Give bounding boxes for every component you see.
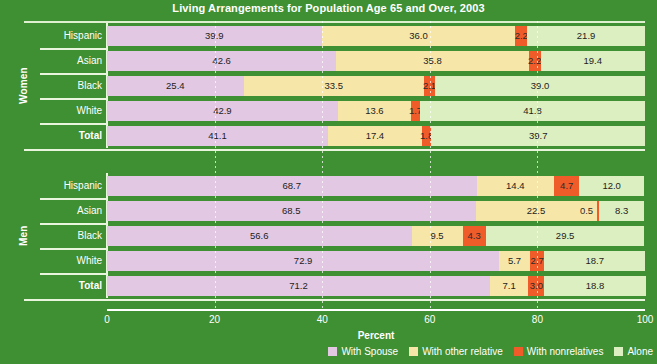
- bar-segment: [107, 201, 476, 221]
- bar-segment: [322, 26, 516, 46]
- chart-row: Asian68.522.50.58.3: [0, 198, 657, 223]
- stacked-bar: 42.913.61.741.8: [107, 101, 645, 121]
- bar-segment: [107, 226, 412, 246]
- bar-segment: [554, 176, 579, 196]
- stacked-bar: 68.714.44.712.0: [107, 176, 645, 196]
- bar-segment: [527, 26, 645, 46]
- bar-segment: [490, 276, 528, 296]
- stacked-bar: 41.117.41.839.7: [107, 126, 645, 146]
- bar-segment: [435, 76, 645, 96]
- x-tick-label: 40: [302, 314, 342, 325]
- legend-swatch-icon: [514, 347, 523, 356]
- row-label-total: Total: [40, 273, 102, 298]
- chart-row: White42.913.61.741.8: [0, 98, 657, 123]
- legend-label: With nonrelatives: [527, 346, 604, 357]
- bar-segment: [424, 76, 435, 96]
- legend-item: Alone: [614, 346, 653, 357]
- bar-segment: [412, 226, 463, 246]
- bar-segment: [599, 201, 644, 221]
- bar-segment: [420, 101, 645, 121]
- row-label-white: White: [40, 248, 102, 273]
- row-label-hispanic: Hispanic: [40, 173, 102, 198]
- row-label-asian: Asian: [40, 48, 102, 73]
- x-tick-label: 80: [517, 314, 557, 325]
- bar-segment: [515, 26, 527, 46]
- x-tick-label: 20: [195, 314, 235, 325]
- bar-segment: [411, 101, 420, 121]
- chart-row: Total71.27.13.018.8: [0, 273, 657, 298]
- bar-segment: [477, 176, 554, 196]
- bar-segment: [107, 101, 338, 121]
- legend-swatch-icon: [328, 347, 337, 356]
- bar-segment: [544, 276, 645, 296]
- group-separator-rule: [24, 149, 645, 151]
- legend-label: With other relative: [422, 346, 503, 357]
- chart-container: Living Arrangements for Population Age 6…: [0, 0, 657, 364]
- stacked-bar: 39.936.02.221.9: [107, 26, 645, 46]
- chart-row: Hispanic68.714.44.712.0: [0, 173, 657, 198]
- legend-swatch-icon: [614, 347, 623, 356]
- bar-segment: [107, 126, 328, 146]
- legend-item: With other relative: [409, 346, 503, 357]
- x-tick-label: 0: [87, 314, 127, 325]
- bar-segment: [244, 76, 424, 96]
- bar-segment: [422, 126, 432, 146]
- chart-row: Total41.117.41.839.7: [0, 123, 657, 148]
- row-label-black: Black: [40, 73, 102, 98]
- bar-segment: [107, 51, 336, 71]
- x-tick-label: 60: [410, 314, 450, 325]
- legend-item: With nonrelatives: [514, 346, 604, 357]
- stacked-bar: 42.635.82.219.4: [107, 51, 645, 71]
- bar-segment: [107, 251, 499, 271]
- row-label-white: White: [40, 98, 102, 123]
- bar-segment: [107, 76, 244, 96]
- chart-row: Hispanic39.936.02.221.9: [0, 23, 657, 48]
- legend-label: Alone: [627, 346, 653, 357]
- chart-row: Black56.69.54.329.5: [0, 223, 657, 248]
- bar-segment: [486, 226, 645, 246]
- bar-segment: [338, 101, 411, 121]
- bar-segment: [463, 226, 486, 246]
- row-label-hispanic: Hispanic: [40, 23, 102, 48]
- legend-swatch-icon: [409, 347, 418, 356]
- bar-segment: [107, 276, 490, 296]
- stacked-bar: 72.95.72.718.7: [107, 251, 645, 271]
- chart-row: Black25.433.52.139.0: [0, 73, 657, 98]
- bar-segment: [107, 176, 477, 196]
- x-axis-line: [107, 309, 645, 311]
- bar-segment: [529, 51, 541, 71]
- row-label-black: Black: [40, 223, 102, 248]
- bar-segment: [328, 126, 422, 146]
- stacked-bar: 56.69.54.329.5: [107, 226, 645, 246]
- row-label-asian: Asian: [40, 198, 102, 223]
- bar-segment: [336, 51, 529, 71]
- bar-segment: [530, 251, 545, 271]
- bar-segment: [541, 51, 645, 71]
- legend-item: With Spouse: [328, 346, 398, 357]
- x-axis-title: Percent: [107, 330, 645, 341]
- stacked-bar: 68.522.50.58.3: [107, 201, 645, 221]
- bar-segment: [499, 251, 530, 271]
- bar-segment: [476, 201, 597, 221]
- stacked-bar: 71.27.13.018.8: [107, 276, 645, 296]
- x-tick-label: 100: [625, 314, 657, 325]
- bar-segment: [431, 126, 645, 146]
- row-label-total: Total: [40, 123, 102, 148]
- legend-label: With Spouse: [341, 346, 398, 357]
- bar-segment: [579, 176, 644, 196]
- chart-row: White72.95.72.718.7: [0, 248, 657, 273]
- bar-segment: [107, 26, 322, 46]
- chart-row: Asian42.635.82.219.4: [0, 48, 657, 73]
- bar-segment: [528, 276, 544, 296]
- stacked-bar: 25.433.52.139.0: [107, 76, 645, 96]
- chart-title: Living Arrangements for Population Age 6…: [0, 2, 657, 14]
- plot-bottom-rule: [24, 299, 645, 301]
- legend: With SpouseWith other relativeWith nonre…: [328, 346, 653, 357]
- bar-segment: [544, 251, 645, 271]
